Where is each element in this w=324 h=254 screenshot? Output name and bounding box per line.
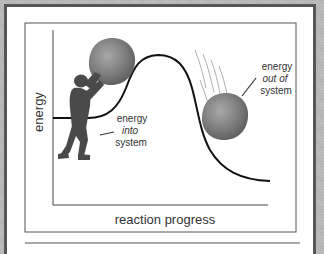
annotation-line: energy <box>262 61 293 72</box>
person-pushing-icon <box>58 72 104 160</box>
annotation-line: into <box>122 125 139 136</box>
annotation-line: energy <box>117 113 148 124</box>
pointer-line-into <box>100 132 114 135</box>
annotation-line: system <box>115 137 147 148</box>
annotation-line: system <box>260 85 292 96</box>
x-axis-label: reaction progress <box>115 212 216 227</box>
y-axis-label: energy <box>31 92 46 132</box>
annotation-energy-into: energy into system <box>115 113 147 148</box>
annotation-energy-out: energy out of system <box>260 61 292 96</box>
boulder-rolling-icon <box>202 93 248 140</box>
annotation-line: out of <box>262 73 288 84</box>
pointer-line-out <box>242 78 256 96</box>
